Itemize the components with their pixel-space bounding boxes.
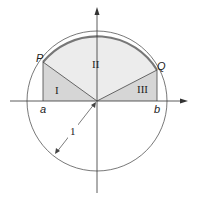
label-region-II: II: [92, 58, 100, 70]
label-b: b: [154, 103, 160, 115]
label-Q: Q: [157, 60, 166, 72]
y-axis-arrow-icon: [95, 7, 100, 15]
unit-circle-diagram: P Q a b I II III 1: [0, 0, 198, 203]
label-radius: 1: [70, 125, 76, 137]
label-region-III: III: [137, 83, 148, 95]
x-axis-arrow-icon: [180, 99, 188, 104]
label-a: a: [40, 103, 46, 115]
label-P: P: [36, 52, 44, 64]
label-region-I: I: [55, 84, 59, 96]
